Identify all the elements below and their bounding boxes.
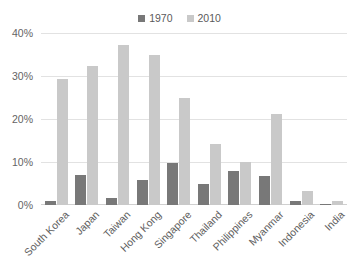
bar-2010[interactable] [240,162,251,205]
y-axis-tick-label: 30% [12,71,33,82]
bar-group [255,33,286,205]
bar-group [133,33,164,205]
bar-group [286,33,317,205]
bar-2010[interactable] [149,55,160,205]
bar-1970[interactable] [290,201,301,205]
bar-group [194,33,225,205]
bar-1970[interactable] [167,163,178,205]
bar-2010[interactable] [332,201,343,205]
bar-1970[interactable] [320,204,331,205]
bar-2010[interactable] [87,66,98,205]
legend-swatch-icon [187,15,194,22]
bar-group [316,33,347,205]
bar-2010[interactable] [210,144,221,205]
bar-2010[interactable] [179,98,190,205]
bar-1970[interactable] [228,171,239,205]
bar-1970[interactable] [106,198,117,205]
legend-entry-1970[interactable]: 1970 [138,13,172,24]
x-axis-tick-label: Japan [74,209,102,237]
y-axis-tick-label: 10% [12,157,33,168]
bar-group [72,33,103,205]
legend-label: 2010 [198,13,221,24]
bar-2010[interactable] [302,191,313,205]
bar-1970[interactable] [259,176,270,205]
y-axis-tick-label: 40% [12,28,33,39]
x-axis: South KoreaJapanTaiwanHong KongSingapore… [41,206,347,275]
bar-group [41,33,72,205]
bar-1970[interactable] [198,184,209,205]
bar-1970[interactable] [75,175,86,205]
bar-1970[interactable] [45,201,56,205]
y-axis: 0%10%20%30%40% [0,33,37,205]
bar-1970[interactable] [137,180,148,205]
legend-entry-2010[interactable]: 2010 [187,13,221,24]
bar-group [102,33,133,205]
x-axis-tick-label: India [323,209,347,233]
x-axis-tick-label: South Korea [22,209,71,258]
bar-2010[interactable] [271,114,282,205]
bar-group [163,33,194,205]
bar-2010[interactable] [57,79,68,205]
chart-legend: 19702010 [0,11,359,25]
bar-group [225,33,256,205]
bar-chart: 19702010 0%10%20%30%40% South KoreaJapan… [0,0,359,275]
bar-2010[interactable] [118,45,129,205]
legend-label: 1970 [149,13,172,24]
bar-series-container [41,33,347,205]
y-axis-tick-label: 0% [18,200,33,211]
legend-swatch-icon [138,15,145,22]
y-axis-tick-label: 20% [12,114,33,125]
